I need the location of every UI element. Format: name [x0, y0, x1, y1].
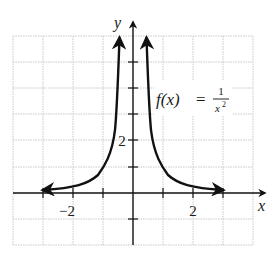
function-lhs: f(x)	[156, 90, 180, 109]
x-tick-label-neg2: −2	[59, 203, 75, 219]
axes	[13, 22, 265, 245]
x-axis-label: x	[257, 197, 265, 214]
y-tick-label-2: 2	[118, 133, 126, 149]
y-axis-label: y	[112, 14, 122, 32]
fraction-denominator-exponent: 2	[222, 100, 226, 109]
fraction-numerator: 1	[218, 85, 224, 97]
function-label: f(x) = 1 x 2	[154, 80, 232, 116]
function-equals: =	[196, 90, 206, 109]
function-graph: y x −2 2 2 f(x) = 1 x 2	[0, 0, 273, 256]
x-tick-label-2: 2	[189, 203, 197, 219]
fraction-denominator-base: x	[214, 102, 220, 114]
